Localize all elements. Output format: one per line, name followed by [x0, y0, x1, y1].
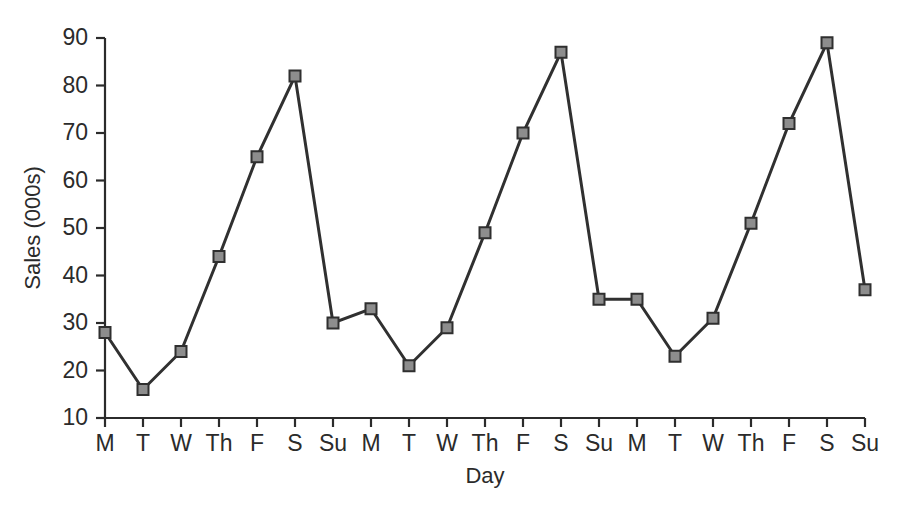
x-tick-label: W — [436, 430, 458, 456]
x-tick-label: W — [170, 430, 192, 456]
y-axis-tick-labels: 102030405060708090 — [62, 24, 88, 430]
data-point-marker — [746, 218, 757, 229]
data-point-marker — [594, 294, 605, 305]
data-point-marker — [138, 384, 149, 395]
data-point-marker — [556, 47, 567, 58]
x-tick-label: T — [668, 430, 682, 456]
data-point-marker — [252, 151, 263, 162]
chart-canvas: Sales (000s) Day 102030405060708090 MTWT… — [0, 0, 904, 512]
data-point-marker — [214, 251, 225, 262]
x-tick-label: M — [627, 430, 646, 456]
y-tick-label: 20 — [62, 357, 88, 383]
y-axis-title: Sales (000s) — [20, 166, 45, 290]
x-tick-label: T — [402, 430, 416, 456]
data-point-marker — [670, 351, 681, 362]
line-chart: Sales (000s) Day 102030405060708090 MTWT… — [0, 0, 904, 512]
x-tick-label: S — [287, 430, 302, 456]
x-tick-label: M — [361, 430, 380, 456]
data-point-marker — [290, 71, 301, 82]
y-tick-label: 30 — [62, 309, 88, 335]
data-point-marker — [518, 128, 529, 139]
y-tick-label: 50 — [62, 214, 88, 240]
x-tick-label: S — [553, 430, 568, 456]
x-tick-label: Th — [738, 430, 765, 456]
data-point-marker — [404, 360, 415, 371]
x-axis-title: Day — [465, 463, 504, 488]
y-tick-label: 70 — [62, 119, 88, 145]
x-tick-label: F — [516, 430, 530, 456]
x-tick-label: F — [782, 430, 796, 456]
data-point-marker — [176, 346, 187, 357]
x-tick-label: M — [95, 430, 114, 456]
x-tick-label: Th — [206, 430, 233, 456]
x-axis-tick-labels: MTWThFSSuMTWThFSSuMTWThFSSu — [95, 430, 879, 456]
x-tick-label: S — [819, 430, 834, 456]
x-tick-label: T — [136, 430, 150, 456]
x-tick-label: Su — [851, 430, 879, 456]
sales-line-series — [105, 43, 865, 390]
y-tick-label: 60 — [62, 167, 88, 193]
data-point-marker — [100, 327, 111, 338]
x-tick-label: W — [702, 430, 724, 456]
data-point-marker — [708, 313, 719, 324]
x-axis-ticks — [105, 418, 865, 427]
data-point-marker — [822, 37, 833, 48]
data-point-marker — [860, 284, 871, 295]
y-tick-label: 90 — [62, 24, 88, 50]
y-tick-label: 80 — [62, 72, 88, 98]
x-tick-label: Su — [585, 430, 613, 456]
x-tick-label: F — [250, 430, 264, 456]
data-point-marker — [480, 227, 491, 238]
data-point-marker — [784, 118, 795, 129]
data-point-marker — [632, 294, 643, 305]
x-tick-label: Su — [319, 430, 347, 456]
data-point-marker — [442, 322, 453, 333]
y-tick-label: 40 — [62, 262, 88, 288]
y-tick-label: 10 — [62, 404, 88, 430]
data-point-marker — [328, 318, 339, 329]
y-axis-ticks — [96, 38, 105, 418]
data-point-marker — [366, 303, 377, 314]
x-tick-label: Th — [472, 430, 499, 456]
